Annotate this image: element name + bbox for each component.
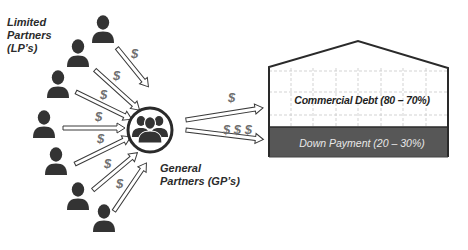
commercial-debt-label: Commercial Debt (80 – 70%) <box>270 94 454 106</box>
person-icon <box>67 182 89 210</box>
lp-label-line1: Limited <box>7 16 77 29</box>
person-icon <box>92 15 114 43</box>
gp-label: General Partners (GP’s) <box>160 162 270 188</box>
person-icon <box>45 147 67 175</box>
dollar-label: $ <box>115 176 124 191</box>
person-icon <box>93 204 115 232</box>
dollar-triple-label: $ $ $ <box>222 122 253 137</box>
person-icon <box>33 110 55 138</box>
gp-label-line1: General <box>160 162 270 175</box>
lp-label: Limited Partners (LP’s) <box>7 16 77 55</box>
dollar-label: $ <box>227 90 236 105</box>
down-payment-label: Down Payment (20 – 30%) <box>270 137 454 149</box>
lp-label-line2: Partners <box>7 29 77 42</box>
syndication-diagram: $ $ $ $ $ $ $ $ $ $ $ <box>0 0 468 250</box>
dollar-label: $ <box>96 131 105 146</box>
lp-label-line3: (LP’s) <box>7 42 77 55</box>
gp-group-icon <box>128 108 172 152</box>
dollar-label: $ <box>130 46 139 61</box>
dollar-label: $ <box>99 87 108 102</box>
gp-label-line2: Partners (GP’s) <box>160 175 270 188</box>
dollar-label: $ <box>94 109 103 124</box>
person-icon <box>47 70 69 98</box>
dollar-label: $ <box>103 156 112 171</box>
dollar-label: $ <box>112 68 121 83</box>
